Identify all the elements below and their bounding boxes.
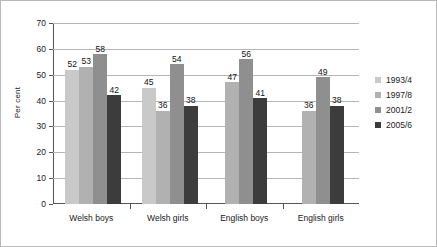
legend-item[interactable]: 2001/2	[375, 105, 412, 115]
bar-value-label: 45	[144, 78, 153, 87]
chart-legend: 1993/41997/82001/22005/6	[375, 1, 412, 204]
bar: 54	[170, 64, 184, 204]
y-tick-label: 40	[37, 96, 46, 106]
bar: 42	[107, 95, 121, 204]
legend-label: 1993/4	[386, 75, 412, 85]
bar: 36	[156, 111, 170, 204]
legend-swatch-icon	[375, 122, 381, 128]
legend-label: 2001/2	[386, 105, 412, 115]
category-label: English girls	[298, 213, 344, 223]
category-label: Welsh girls	[147, 213, 188, 223]
plot-area: 010203040506070 525358424536543847564136…	[53, 23, 359, 204]
legend-label: 1997/8	[386, 90, 412, 100]
y-tick-label: 70	[37, 18, 46, 28]
bar: 56	[239, 59, 253, 204]
legend-label: 2005/6	[386, 120, 412, 130]
bar-value-label: 36	[158, 101, 167, 110]
bar: 49	[316, 77, 330, 204]
legend-item[interactable]: 1997/8	[375, 90, 412, 100]
y-tick-label: 50	[37, 70, 46, 80]
category-separator-tick	[130, 204, 131, 209]
bar-value-label: 52	[68, 60, 77, 69]
bar-value-label: 42	[110, 86, 119, 95]
bar: 41	[253, 98, 267, 204]
bar-value-label: 41	[256, 89, 265, 98]
category-label: English boys	[220, 213, 268, 223]
bar-value-label: 56	[242, 50, 251, 59]
y-axis-title-text: Per cent	[14, 87, 23, 118]
bar: 45	[142, 88, 156, 204]
bar-series-group: 5253584245365438475641364938	[53, 23, 359, 204]
category-label: Welsh boys	[69, 213, 113, 223]
category-separator-tick	[283, 204, 284, 209]
y-tick-label: 0	[41, 199, 46, 209]
y-tick-label: 30	[37, 121, 46, 131]
legend-item[interactable]: 2005/6	[375, 120, 412, 130]
bar-value-label: 36	[304, 101, 313, 110]
legend-swatch-icon	[375, 92, 381, 98]
bar-value-label: 38	[332, 96, 341, 105]
bar-value-label: 38	[186, 96, 195, 105]
bar-value-label: 47	[228, 73, 237, 82]
legend-item[interactable]: 1993/4	[375, 75, 412, 85]
bar: 52	[65, 70, 79, 204]
y-tick-label: 60	[37, 44, 46, 54]
y-axis-title: Per cent	[9, 1, 27, 204]
category-separator-tick	[206, 204, 207, 209]
bar-value-label: 49	[318, 68, 327, 77]
bar-value-label: 53	[82, 57, 91, 66]
bar-value-label: 58	[96, 45, 105, 54]
bar: 36	[302, 111, 316, 204]
bar: 58	[93, 54, 107, 204]
bar: 53	[79, 67, 93, 204]
bar-chart-figure: Per cent 010203040506070 525358424536543…	[0, 0, 437, 247]
bar: 47	[225, 82, 239, 204]
legend-swatch-icon	[375, 77, 381, 83]
bar-value-label: 54	[172, 55, 181, 64]
y-tick-label: 20	[37, 147, 46, 157]
y-tick-label: 10	[37, 173, 46, 183]
bar: 38	[330, 106, 344, 204]
legend-swatch-icon	[375, 107, 381, 113]
bar: 38	[184, 106, 198, 204]
y-tick-mark	[49, 204, 53, 205]
